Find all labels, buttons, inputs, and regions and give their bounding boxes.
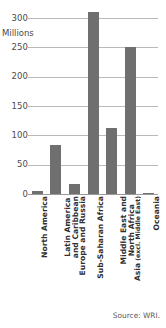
x-label-oceania: Oceania bbox=[153, 196, 161, 230]
bar-north-america bbox=[32, 191, 43, 194]
plot-area bbox=[28, 18, 158, 194]
x-label-asia-excl-middle-east: Asia (excl. Middle East) bbox=[134, 196, 142, 281]
y-tick-label-200: 200 bbox=[2, 72, 28, 81]
x-label-line: Asia (excl. Middle East) bbox=[134, 196, 142, 281]
source-attribution: Source: WRI. bbox=[113, 311, 160, 320]
x-label-line: Europe and Russia bbox=[79, 196, 87, 275]
y-tick-label-250: 250 bbox=[2, 43, 28, 52]
gridline-0 bbox=[28, 194, 158, 195]
x-axis-labels: North America Latin Americaand Caribbean… bbox=[28, 196, 158, 304]
bar-oceania bbox=[143, 193, 154, 194]
y-tick-label-150: 150 bbox=[2, 102, 28, 111]
bar-chart: 300 Millions 250 200 150 100 50 0 North … bbox=[0, 0, 166, 328]
x-label-line: Oceania bbox=[153, 196, 161, 230]
y-tick-label-0: 0 bbox=[2, 190, 28, 199]
y-tick-label-300: 300 bbox=[2, 14, 28, 23]
y-tick-label-100: 100 bbox=[2, 131, 28, 140]
x-label-line: Sub-Saharan Africa bbox=[97, 196, 105, 279]
x-label-sub-saharan-africa: Sub-Saharan Africa bbox=[97, 196, 105, 279]
bar-middle-east-and-north-africa bbox=[106, 128, 117, 194]
bar-asia-excl-middle-east bbox=[125, 47, 136, 194]
y-axis: 300 Millions 250 200 150 100 50 0 bbox=[0, 18, 28, 194]
bar-europe-and-russia bbox=[69, 184, 80, 194]
x-label-europe-and-russia: Europe and Russia bbox=[79, 196, 87, 275]
x-label-north-america: North America bbox=[41, 196, 49, 258]
bar-latin-america-and-caribbean bbox=[50, 145, 61, 194]
y-tick-label-50: 50 bbox=[2, 160, 28, 169]
bar-sub-saharan-africa bbox=[88, 12, 99, 194]
x-label-line: North America bbox=[41, 196, 49, 258]
